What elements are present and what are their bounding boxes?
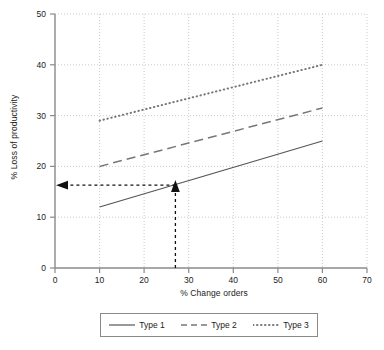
ytick-label-20: 20 <box>37 161 47 171</box>
horizontal-gridlines <box>55 14 367 217</box>
legend-label-type-2: Type 2 <box>211 320 237 330</box>
xtick-label-30: 30 <box>184 275 194 285</box>
legend-label-type-1: Type 1 <box>139 320 165 330</box>
xtick-label-70: 70 <box>362 275 372 285</box>
y-axis-label: % Loss of productivity <box>9 57 19 217</box>
x-axis-ticks <box>55 268 367 273</box>
ytick-label-30: 30 <box>37 111 47 121</box>
legend-swatch-solid <box>109 321 135 329</box>
legend-entry-type-3: Type 3 <box>253 320 309 330</box>
series-line-type-1 <box>100 141 323 207</box>
chart-legend: Type 1 Type 2 Type 3 <box>100 313 318 337</box>
annotation-indicators <box>56 180 180 268</box>
x-axis-label: % Change orders <box>0 288 384 298</box>
ytick-label-50: 50 <box>37 9 47 19</box>
y-axis-ticks <box>50 14 55 268</box>
xtick-label-20: 20 <box>139 275 149 285</box>
ytick-label-40: 40 <box>37 60 47 70</box>
vertical-gridlines <box>100 14 367 268</box>
series-line-type-3 <box>100 65 323 121</box>
legend-swatch-dotted <box>253 321 279 329</box>
xtick-label-50: 50 <box>273 275 283 285</box>
legend-swatch-dashed <box>181 321 207 329</box>
xtick-label-60: 60 <box>318 275 328 285</box>
chart-figure: 50 40 30 20 10 0 0 10 20 30 40 50 60 70 <box>0 0 384 350</box>
xtick-label-40: 40 <box>229 275 239 285</box>
ytick-label-10: 10 <box>37 212 47 222</box>
legend-label-type-3: Type 3 <box>283 320 309 330</box>
legend-entry-type-1: Type 1 <box>109 320 165 330</box>
horizontal-indicator-arrowhead <box>56 181 68 190</box>
legend-entry-type-2: Type 2 <box>181 320 237 330</box>
ytick-label-0: 0 <box>41 263 46 273</box>
series-line-type-2 <box>100 108 323 166</box>
xtick-label-10: 10 <box>95 275 105 285</box>
xtick-label-0: 0 <box>53 275 58 285</box>
